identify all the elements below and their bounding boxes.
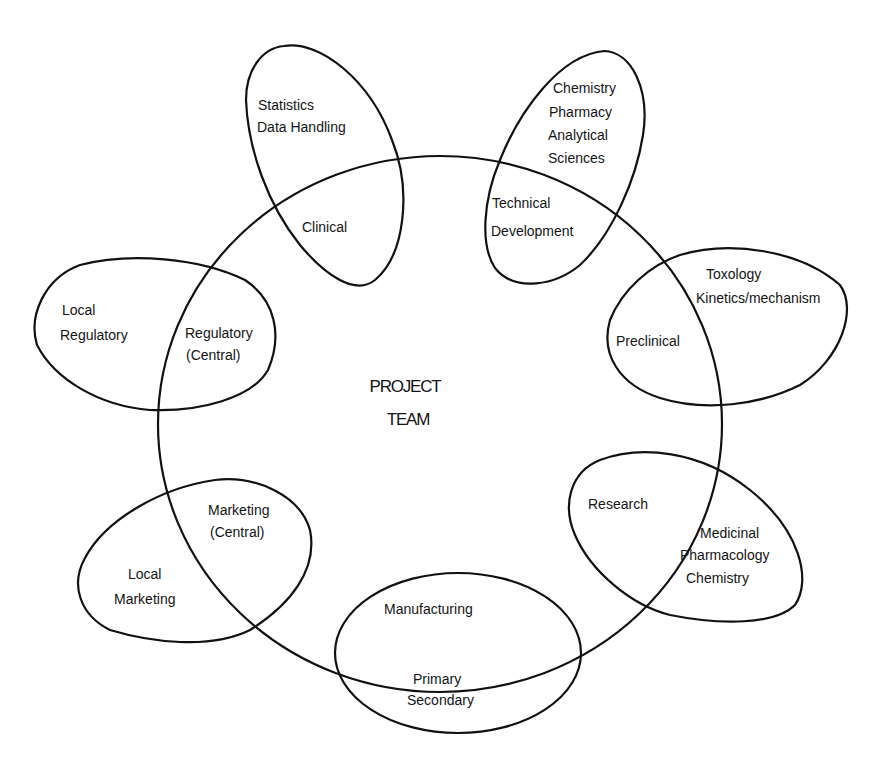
technical-inner-line-1: Technical — [492, 195, 550, 211]
clinical-outer-line-1: Statistics — [258, 97, 314, 113]
regulatory-inner-line-1: Regulatory — [185, 325, 253, 341]
regulatory-inner-line-2: (Central) — [186, 347, 240, 363]
manufacturing-outer-line-1: Primary — [413, 671, 461, 687]
preclinical-outer-line-2: Kinetics/mechanism — [696, 290, 821, 306]
research-outer-line-2: Pharmacology — [680, 547, 770, 563]
preclinical-outer-line-1: Toxology — [706, 266, 761, 282]
marketing-ellipse — [78, 479, 311, 642]
clinical-inner-label: Clinical — [302, 219, 347, 235]
clinical-ellipse — [246, 45, 403, 285]
regulatory-outer-line-2: Regulatory — [60, 327, 128, 343]
project-team-diagram: PROJECT TEAM Statistics Data Handling Cl… — [0, 0, 878, 761]
research-ellipse — [569, 452, 802, 621]
technical-outer-line-4: Sciences — [548, 150, 605, 166]
manufacturing-outer-line-2: Secondary — [407, 692, 474, 708]
manufacturing-inner-label: Manufacturing — [384, 601, 473, 617]
research-outer-line-3: Chemistry — [686, 570, 749, 586]
research-inner-label: Research — [588, 496, 648, 512]
marketing-outer-line-2: Marketing — [114, 591, 175, 607]
research-outer-line-1: Medicinal — [700, 525, 759, 541]
clinical-outer-line-2: Data Handling — [257, 119, 346, 135]
marketing-inner-line-1: Marketing — [208, 502, 269, 518]
preclinical-inner-label: Preclinical — [616, 333, 680, 349]
regulatory-outer-line-1: Local — [62, 302, 95, 318]
marketing-outer-line-1: Local — [128, 566, 161, 582]
marketing-inner-line-2: (Central) — [210, 524, 264, 540]
technical-outer-line-3: Analytical — [548, 127, 608, 143]
center-label-line-2: TEAM — [387, 410, 429, 429]
technical-inner-line-2: Development — [491, 223, 574, 239]
technical-outer-line-1: Chemistry — [553, 80, 616, 96]
center-label-line-1: PROJECT — [370, 377, 442, 396]
manufacturing-ellipse — [335, 573, 581, 733]
technical-outer-line-2: Pharmacy — [549, 104, 612, 120]
